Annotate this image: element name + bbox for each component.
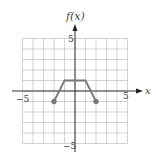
x-axis-arrow-icon: [136, 89, 143, 94]
y-min-label: −5: [63, 141, 77, 151]
y-max-label: 5: [68, 34, 74, 44]
x-max-label: 5: [123, 91, 129, 101]
endpoint-dot: [94, 99, 99, 104]
y-axis-arrow-icon: [73, 24, 78, 31]
x-min-label: −5: [16, 94, 30, 104]
endpoint-dot: [52, 99, 57, 104]
function-graph: f(x) x −5 5 5 −5: [0, 0, 156, 159]
y-axis-label: f(x): [65, 10, 85, 23]
x-axis-label: x: [145, 85, 151, 96]
